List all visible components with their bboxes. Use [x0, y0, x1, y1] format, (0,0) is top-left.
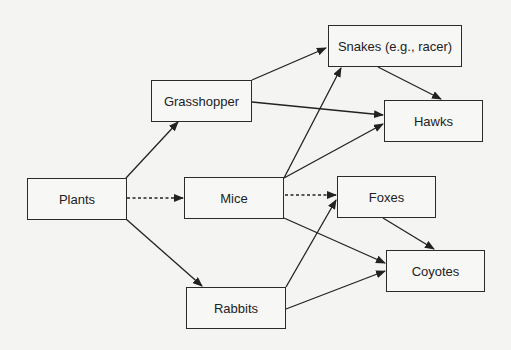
- node-label: Rabbits: [214, 301, 258, 316]
- arrow-plants-to-grasshopper: [126, 122, 178, 178]
- node-label: Coyotes: [412, 264, 460, 279]
- node-hawks: Hawks: [384, 100, 483, 142]
- arrow-snakes-to-hawks: [378, 67, 441, 99]
- node-label: Mice: [220, 191, 247, 206]
- node-label: Snakes (e.g., racer): [338, 39, 452, 54]
- arrow-mice-to-hawks: [284, 124, 383, 178]
- arrow-foxes-to-coyotes: [383, 218, 434, 249]
- arrow-mice-to-snakes: [284, 68, 341, 178]
- node-mice: Mice: [184, 177, 284, 219]
- node-label: Hawks: [414, 114, 453, 129]
- arrow-plants-to-rabbits: [126, 219, 202, 286]
- node-label: Grasshopper: [164, 94, 239, 109]
- node-foxes: Foxes: [337, 176, 436, 218]
- arrow-mice-to-coyotes: [284, 218, 385, 263]
- node-label: Foxes: [369, 190, 404, 205]
- arrow-rabbits-to-foxes: [286, 200, 336, 287]
- food-web-diagram: Plants Grasshopper Mice Rabbits Snakes (…: [0, 0, 511, 350]
- node-plants: Plants: [27, 178, 127, 220]
- arrow-grasshopper-to-snakes: [252, 48, 326, 80]
- node-rabbits: Rabbits: [186, 287, 286, 329]
- node-label: Plants: [59, 192, 95, 207]
- node-snakes: Snakes (e.g., racer): [328, 25, 462, 67]
- arrow-rabbits-to-coyotes: [286, 271, 385, 309]
- node-grasshopper: Grasshopper: [151, 80, 252, 122]
- node-coyotes: Coyotes: [386, 250, 485, 292]
